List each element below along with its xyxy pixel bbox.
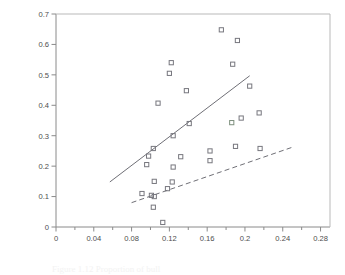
data-point-marker	[179, 155, 183, 159]
data-point-marker	[230, 121, 234, 125]
figure-caption: Figure 1.12 Proportion of bull	[52, 264, 342, 274]
x-axis-tick-labels: 00.040.080.120.160.20.240.28	[54, 234, 328, 243]
x-tick-label: 0.24	[275, 234, 290, 243]
data-point-marker	[161, 220, 165, 224]
y-axis-ticks	[52, 14, 57, 227]
data-point-marker	[184, 89, 188, 93]
data-point-marker	[235, 38, 239, 42]
data-points	[140, 28, 262, 225]
x-tick-label: 0.16	[200, 234, 215, 243]
data-point-marker	[257, 111, 261, 115]
y-tick-label: 0	[45, 223, 49, 232]
data-point-marker	[233, 144, 237, 148]
x-axis-ticks	[56, 227, 321, 232]
y-tick-label: 0.6	[38, 40, 49, 49]
x-tick-label: 0.2	[240, 234, 251, 243]
y-tick-label: 0.3	[38, 132, 49, 141]
plot-frame	[56, 14, 330, 227]
data-point-marker	[156, 101, 160, 105]
y-tick-label: 0.5	[38, 71, 49, 80]
data-point-marker	[151, 205, 155, 209]
x-tick-label: 0.08	[124, 234, 139, 243]
data-point-marker	[152, 194, 156, 198]
x-tick-label: 0.04	[86, 234, 101, 243]
data-point-marker	[171, 165, 175, 169]
data-point-marker	[145, 163, 149, 167]
y-tick-label: 0.4	[38, 101, 49, 110]
data-point-marker	[208, 159, 212, 163]
y-tick-label: 0.1	[38, 192, 49, 201]
data-point-marker	[170, 180, 174, 184]
data-point-marker	[258, 146, 262, 150]
data-point-marker	[169, 61, 173, 65]
trend-lines	[110, 76, 292, 203]
y-tick-label: 0.7	[38, 10, 49, 19]
y-tick-label: 0.2	[38, 162, 49, 171]
plot-canvas: 00.040.080.120.160.20.240.28 00.10.20.30…	[0, 0, 345, 275]
data-point-marker	[248, 84, 252, 88]
data-point-marker	[219, 28, 223, 32]
x-tick-label: 0.12	[162, 234, 177, 243]
data-point-marker	[165, 187, 169, 191]
data-point-marker	[152, 179, 156, 183]
data-point-marker	[208, 149, 212, 153]
data-point-marker	[167, 71, 171, 75]
data-point-marker	[140, 191, 144, 195]
data-point-marker	[231, 62, 235, 66]
solid-fit-line	[110, 76, 250, 182]
x-tick-label: 0.28	[313, 234, 328, 243]
x-tick-label: 0	[54, 234, 58, 243]
scatter-plot-figure: 00.040.080.120.160.20.240.28 00.10.20.30…	[0, 0, 345, 275]
y-axis-tick-labels: 00.10.20.30.40.50.60.7	[38, 10, 49, 232]
data-point-marker	[239, 116, 243, 120]
data-point-marker	[146, 154, 150, 158]
